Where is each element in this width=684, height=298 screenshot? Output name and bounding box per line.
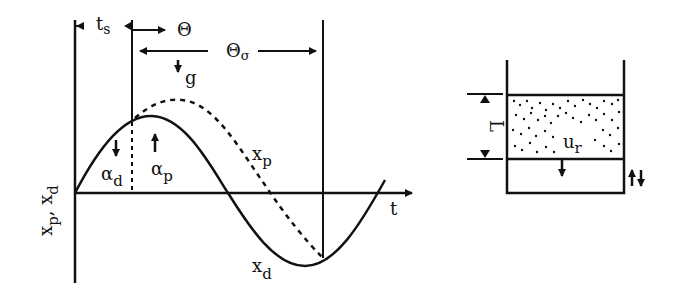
g-label: g [185,67,197,88]
ts-label: ts [96,13,110,37]
xd-curve-label: xd [252,255,272,283]
dim-arrow-top [480,95,490,103]
y-axis-label: xp, xd [35,185,62,236]
container [507,60,624,193]
right-labels: L ur [486,120,583,157]
ur-label: ur [563,131,583,157]
figure: ts Θ Θσ g αd αp xp xd t xp, xd [0,0,684,298]
bed-height-label: L [486,120,507,132]
alpha-p-label: αp [151,158,173,185]
alpha-d-label: αd [101,163,123,190]
ts-arrowhead-left [76,22,84,30]
x-axis-label: t [390,198,398,219]
theta-label: Θ [177,19,192,40]
xp-curve-label: xp [252,143,272,170]
ts-arrowhead-right [124,22,131,30]
xd-curve [75,116,385,266]
theta-sigma-label: Θσ [226,40,250,63]
dim-arrow-bottom [480,150,490,158]
